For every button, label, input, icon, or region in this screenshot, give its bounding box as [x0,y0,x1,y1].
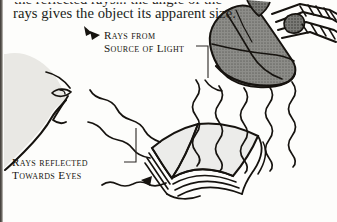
lamp-arm [272,4,337,42]
callout-line-1: Rays reflected [12,156,88,169]
body-text-line: rays gives the object its apparent size. [13,5,236,22]
callout-line-2: Towards Eyes [12,169,88,182]
callout-line-2: Source of Light [104,42,184,55]
arrow-to-eye-upper [90,31,100,40]
leader-source-of-light [196,46,208,78]
callout-rays-reflected-towards-eyes: Rays reflected Towards Eyes [12,156,88,183]
callout-rays-from-source-of-light: Rays from Source of Light [104,29,184,56]
illustration-page: the reflected rays... the angle of the r… [0,0,337,222]
face-profile [4,53,71,170]
callout-line-1: Rays from [104,29,184,42]
